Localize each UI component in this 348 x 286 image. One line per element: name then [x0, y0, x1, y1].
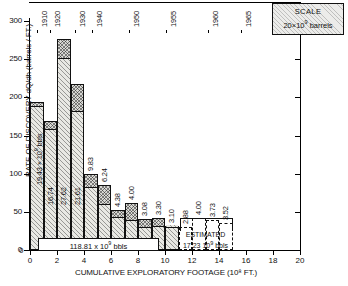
bar	[44, 121, 58, 250]
x-tick	[30, 251, 31, 255]
bar-cap-segment	[58, 40, 70, 59]
bar-cap-segment	[112, 211, 124, 219]
x-tick	[300, 251, 301, 255]
x-tick-label: 14	[209, 257, 229, 265]
x-tick	[57, 251, 58, 255]
year-tick	[208, 30, 209, 33]
bar-cap-segment	[153, 219, 165, 227]
x-tick	[111, 251, 112, 255]
bar-cap-segment	[166, 227, 178, 228]
estimated-bracket	[180, 218, 233, 231]
discovery-rate-chart: RATE OF DISCOVERY dQ/dh (barrels / FT.) …	[0, 0, 348, 286]
year-tick	[241, 30, 242, 33]
y-tick-label: 100	[9, 170, 22, 178]
year-label: 1960	[212, 11, 220, 27]
x-tick-label: 8	[128, 257, 148, 265]
year-tick	[129, 30, 130, 33]
right-tick	[295, 97, 300, 98]
year-label: 1955	[170, 11, 178, 27]
estimated-total: 17.23 109 bbls	[174, 239, 237, 250]
year-tick	[50, 30, 51, 33]
bar-cap-segment	[126, 204, 138, 222]
y-tick	[24, 136, 29, 137]
x-tick-label: 18	[263, 257, 283, 265]
x-tick-label: 20	[290, 257, 310, 265]
bar-cap-segment	[31, 103, 43, 107]
bar-value-label: 21.61	[74, 187, 82, 205]
x-tick-label: 16	[236, 257, 256, 265]
year-label: 1930	[79, 11, 87, 27]
bar-body-segment	[58, 56, 70, 249]
x-tick-label: 2	[47, 257, 67, 265]
bar	[57, 39, 71, 250]
y-tick-label: 0	[18, 246, 22, 254]
year-tick	[92, 30, 93, 33]
right-tick	[295, 59, 300, 60]
x-axis-label: CUMULATIVE EXPLORATORY FOOTAGE (10⁸ FT.)	[30, 268, 302, 277]
x-tick	[273, 251, 274, 255]
right-tick	[295, 174, 300, 175]
y-tick	[24, 174, 29, 175]
bar-value-label: 3.30	[155, 201, 163, 215]
bar-value-label: 16.74	[47, 187, 55, 205]
year-tick	[75, 30, 76, 33]
bar-cap-segment	[85, 175, 97, 188]
year-label: 1965	[245, 11, 253, 27]
right-tick	[295, 212, 300, 213]
x-tick-label: 12	[182, 257, 202, 265]
bar-value-label: 19.43 × 109 bbls	[33, 134, 43, 185]
scale-legend-title: SCALE	[295, 7, 322, 17]
y-tick-label: 50	[14, 208, 23, 216]
year-label: 1920	[54, 11, 62, 27]
y-tick	[24, 97, 29, 98]
bar-cap-segment	[139, 220, 151, 228]
y-tick-label: 300	[9, 17, 22, 25]
scale-legend-value: 20×109 barrels	[283, 17, 332, 31]
x-tick-label: 10	[155, 257, 175, 265]
x-tick	[84, 251, 85, 255]
bar-value-label: 9.83	[87, 157, 95, 171]
x-tick-label: 0	[20, 257, 40, 265]
estimated-annotation: ESTIMATED 17.23 109 bbls	[174, 231, 237, 250]
right-tick	[295, 136, 300, 137]
bar-value-label: 3.73	[209, 203, 217, 217]
y-tick-label: 250	[9, 55, 22, 63]
y-tick	[24, 212, 29, 213]
bar-value-label: 3.08	[141, 203, 149, 217]
bar-value-label: 4.00	[128, 186, 136, 200]
right-axis-line	[300, 2, 301, 251]
bar-cap-segment	[99, 186, 111, 205]
bar-cap-segment	[72, 85, 84, 112]
bar-value-label: 4.00	[195, 201, 203, 215]
bar-value-label: 4.38	[114, 193, 122, 207]
bar-value-label: 3.10	[168, 209, 176, 223]
year-label: 1910	[41, 11, 49, 27]
bar-value-label: 27.62	[60, 187, 68, 205]
y-tick	[24, 59, 29, 60]
x-tick	[246, 251, 247, 255]
y-tick-label: 150	[9, 132, 22, 140]
top-axis-line	[29, 2, 300, 3]
year-tick	[166, 30, 167, 33]
bar-body-segment	[72, 109, 84, 249]
x-tick	[192, 251, 193, 255]
bar-value-label: 6.24	[101, 168, 109, 182]
year-tick	[37, 30, 38, 33]
scale-legend: SCALE 20×109 barrels	[272, 3, 344, 35]
y-tick	[24, 250, 29, 251]
y-tick	[24, 21, 29, 22]
bar	[71, 84, 85, 250]
year-label: 1950	[133, 11, 141, 27]
estimated-label: ESTIMATED	[174, 231, 237, 239]
year-label: 1940	[96, 11, 104, 27]
x-tick	[219, 251, 220, 255]
y-tick-label: 200	[9, 93, 22, 101]
x-tick-label: 4	[74, 257, 94, 265]
cumulative-total-annotation: 118.81 x 109 bbls	[38, 238, 159, 251]
x-tick-label: 6	[101, 257, 121, 265]
x-tick	[165, 251, 166, 255]
x-tick	[138, 251, 139, 255]
bar-cap-segment	[45, 122, 57, 130]
